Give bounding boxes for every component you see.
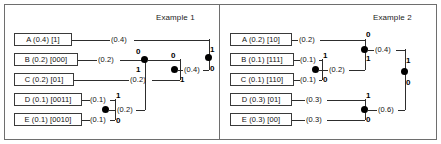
symbol-box-a: A (0.2) [10]	[230, 33, 292, 46]
panel-title-example-1: Example 1	[156, 13, 195, 22]
panel-title-example-2: Example 2	[373, 13, 412, 22]
weight-a: (0.4)	[111, 35, 127, 44]
edge-a-stub	[72, 40, 110, 41]
bit-root-top: 1	[406, 57, 410, 65]
symbol-box-a: A (0.4) [1]	[14, 33, 72, 46]
edge-d-stub	[292, 100, 305, 101]
panel-example-1: Example 1 A (0.4) [1] B (0.2) [000] C (0…	[4, 4, 219, 140]
edge-de-out-stub	[108, 110, 115, 111]
edge-b-stub	[78, 60, 97, 61]
symbol-box-e: E (0.3) [00]	[230, 113, 292, 126]
weight-b: (0.2)	[98, 55, 114, 64]
bit-c: 0	[323, 76, 327, 84]
bit-n2-bot: 0	[366, 116, 370, 124]
bit-n1-bot: 1	[136, 66, 140, 74]
edge-e-stub	[82, 120, 90, 121]
root-node	[205, 54, 212, 61]
bit-n2-top: 0	[171, 52, 175, 60]
edge-c-stub	[74, 80, 129, 81]
symbol-box-d: D (0.3) [01]	[230, 93, 292, 106]
weight-e: (0.3)	[306, 115, 322, 124]
bit-root-bot: 0	[210, 65, 214, 73]
edge-a-in	[320, 40, 365, 41]
symbol-box-d: D (0.1) [0011]	[14, 93, 82, 106]
bit-n1-top: 0	[366, 31, 370, 39]
edge-n2-out-stub	[367, 110, 377, 111]
edge-e-in	[327, 120, 365, 121]
bit-n1-bot: 1	[366, 55, 370, 63]
symbol-box-b: B (0.2) [000]	[14, 53, 78, 66]
weight-d: (0.3)	[306, 95, 322, 104]
symbol-box-e: E (0.1) [0010]	[14, 113, 82, 126]
panel-example-2: Example 2 A (0.2) [10] B (0.1) [111] C (…	[220, 4, 437, 140]
edge-bc-out-stub	[318, 70, 328, 71]
edge-a-in	[134, 40, 209, 41]
weight-b: (0.1)	[300, 55, 316, 64]
weight-a: (0.2)	[299, 35, 315, 44]
edge-d-stub	[82, 100, 90, 101]
edge-n1-out-stub	[367, 50, 374, 51]
weight-de: (0.2)	[117, 105, 133, 114]
weight-d: (0.1)	[90, 95, 106, 104]
huffman-tree-figure: Example 1 A (0.4) [1] B (0.2) [000] C (0…	[0, 0, 441, 144]
bit-n2-top: 1	[366, 92, 370, 100]
bit-d: 1	[116, 92, 120, 100]
edge-d-in	[327, 100, 365, 101]
bit-b: 1	[323, 52, 327, 60]
edge-c-in	[152, 80, 180, 81]
symbol-box-c: C (0.1) [110]	[230, 73, 294, 86]
bit-e: 0	[116, 117, 120, 125]
edge-a-stub	[292, 40, 298, 41]
weight-n1: (0.4)	[375, 45, 391, 54]
weight-n2: (0.4)	[184, 65, 200, 74]
symbol-box-b: B (0.1) [111]	[230, 53, 294, 66]
bit-root-bot: 0	[406, 79, 410, 87]
edge-n2-out-stub	[177, 70, 183, 71]
root-node	[401, 68, 408, 75]
weight-c: (0.2)	[130, 75, 146, 84]
bit-n2-bot: 1	[180, 76, 184, 84]
weight-e: (0.1)	[90, 115, 106, 124]
symbol-box-c: C (0.2) [01]	[14, 73, 74, 86]
weight-bc: (0.2)	[329, 65, 345, 74]
weight-c: (0.1)	[300, 75, 316, 84]
bit-root-top: 1	[210, 46, 214, 54]
edge-bc-to-n1	[349, 70, 365, 71]
weight-n2: (0.6)	[378, 105, 394, 114]
edge-n1-spine	[145, 59, 146, 110]
edge-e-stub	[292, 120, 305, 121]
bit-n1-top: 0	[136, 48, 140, 56]
